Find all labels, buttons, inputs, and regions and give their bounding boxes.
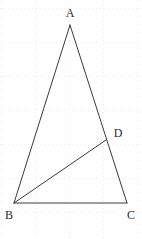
geometry-figure: A B C D: [0, 0, 142, 239]
vertex-label-c: C: [127, 209, 135, 221]
vertex-label-b: B: [5, 209, 13, 221]
vertex-label-a: A: [66, 7, 75, 19]
vertex-label-d: D: [114, 127, 123, 139]
vertex-labels: A B C D: [0, 0, 142, 239]
